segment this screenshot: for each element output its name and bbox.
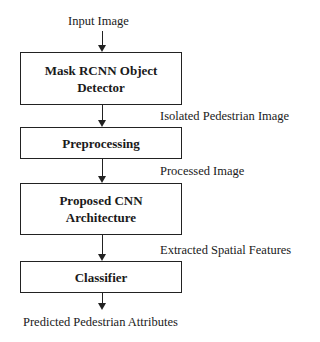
step-preprocessing: Preprocessing — [20, 127, 182, 159]
step-mask-rcnn-detector: Mask RCNN Object Detector — [20, 52, 182, 105]
step-label: Proposed CNN — [59, 192, 142, 209]
step-classifier: Classifier — [20, 261, 182, 293]
edge-label-processed-image: Processed Image — [160, 164, 244, 178]
arrow-preprocessing-to-cnn — [102, 159, 103, 177]
arrowhead-icon — [98, 120, 106, 127]
arrowhead-icon — [98, 303, 106, 310]
step-label: Classifier — [75, 269, 128, 286]
edge-label-extracted-spatial-features: Extracted Spatial Features — [160, 243, 291, 257]
step-label: Architecture — [59, 209, 142, 226]
step-label: Preprocessing — [62, 135, 140, 152]
arrow-detector-to-preprocessing — [102, 105, 103, 121]
arrowhead-icon — [98, 176, 106, 183]
arrowhead-icon — [98, 45, 106, 52]
output-label-predicted-attributes: Predicted Pedestrian Attributes — [23, 315, 178, 329]
input-image-label: Input Image — [68, 14, 129, 28]
arrow-cnn-to-classifier — [102, 235, 103, 255]
step-label: Mask RCNN Object — [45, 62, 158, 79]
arrowhead-icon — [98, 254, 106, 261]
arrow-input-to-detector — [102, 31, 103, 46]
edge-label-isolated-pedestrian-image: Isolated Pedestrian Image — [160, 109, 289, 123]
step-label: Detector — [45, 79, 158, 96]
step-proposed-cnn-architecture: Proposed CNN Architecture — [20, 183, 182, 235]
